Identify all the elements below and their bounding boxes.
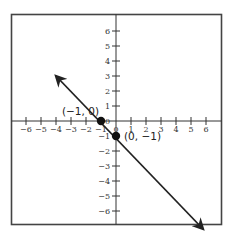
x-tick-label: −5	[35, 125, 47, 134]
y-tick-label: −6	[98, 207, 110, 216]
y-tick-label: −5	[98, 192, 110, 201]
y-tick-label: −3	[98, 162, 110, 171]
point-label-neg1-0: (−1, 0)	[62, 105, 99, 117]
y-tick-label: −2	[98, 147, 110, 156]
y-tick-label: 2	[105, 87, 110, 96]
y-tick-label: 5	[105, 42, 110, 51]
coordinate-plane: −6−5−4−3−2−10123456 −6−5−4−3−2−11234560 …	[0, 0, 228, 234]
y-tick-label: 3	[105, 72, 110, 81]
x-tick-label: −4	[50, 125, 62, 134]
point-label-0-neg1: (0, −1)	[124, 130, 161, 142]
y-tick-label: 4	[105, 57, 110, 66]
y-tick-label: −4	[98, 177, 110, 186]
x-tick-label: 5	[188, 125, 193, 134]
x-tick-label: −3	[65, 125, 77, 134]
x-tick-label: 4	[173, 125, 178, 134]
point-marker	[97, 117, 105, 125]
origin-label: 0	[105, 117, 110, 126]
x-tick-label: −2	[80, 125, 92, 134]
y-tick-label: −1	[98, 132, 110, 141]
x-tick-label: 6	[203, 125, 208, 134]
y-tick-label: 1	[105, 102, 110, 111]
y-tick-label: 6	[105, 27, 110, 36]
point-marker	[112, 132, 120, 140]
x-tick-label: −6	[20, 125, 32, 134]
